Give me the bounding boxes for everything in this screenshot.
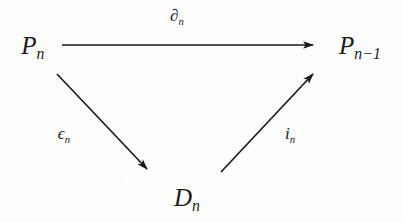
- label-inclusion-map: in: [285, 125, 295, 142]
- node-p-n-base: P: [21, 32, 36, 59]
- label-epsilon-map: ϵn: [58, 125, 70, 142]
- node-p-n-subscript: n: [37, 45, 45, 62]
- node-d-n-subscript: n: [192, 197, 200, 214]
- arrow-epsilon-map: [57, 74, 147, 169]
- node-d-n: Dn: [174, 185, 200, 210]
- node-p-n-minus-1-subscript: n−1: [354, 45, 381, 62]
- label-boundary-map-subscript: n: [178, 14, 183, 26]
- arrow-inclusion-map: [221, 74, 313, 172]
- node-p-n: Pn: [21, 33, 44, 58]
- label-inclusion-map-subscript: n: [290, 132, 295, 144]
- commutative-diagram: Pn Pn−1 Dn ∂n ϵn in: [0, 0, 403, 222]
- node-p-n-minus-1: Pn−1: [339, 33, 381, 58]
- label-epsilon-map-base: ϵ: [58, 124, 65, 143]
- node-p-n-minus-1-base: P: [339, 32, 354, 59]
- label-epsilon-map-subscript: n: [65, 132, 70, 144]
- node-d-n-base: D: [174, 184, 192, 211]
- label-boundary-map: ∂n: [170, 7, 184, 24]
